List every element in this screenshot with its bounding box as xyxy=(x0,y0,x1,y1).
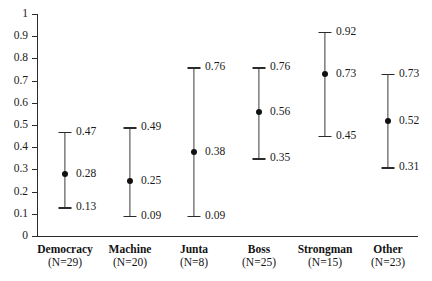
upper-value-label: 0.76 xyxy=(205,61,225,73)
chart-container: 10.90.80.70.60.50.40.30.20.10 0.470.280.… xyxy=(0,0,432,281)
estimate-value-label: 0.52 xyxy=(399,115,419,127)
category-label-democracy: Democracy(N=29) xyxy=(37,243,93,269)
category-name: Strongman xyxy=(298,243,353,256)
error-bar-cap-upper xyxy=(382,74,395,75)
error-bar-line xyxy=(193,67,194,216)
error-bar-cap-upper xyxy=(253,67,266,68)
category-sample-size: (N=23) xyxy=(371,256,405,269)
category-label-boss: Boss(N=25) xyxy=(242,243,276,269)
lower-value-label: 0.35 xyxy=(270,152,290,164)
error-bar-cap-upper xyxy=(124,127,137,128)
data-point-marker xyxy=(191,149,197,155)
y-axis-tick xyxy=(32,192,37,193)
y-axis-tick-label: 0.5 xyxy=(0,119,28,131)
y-axis-tick-label: 0.6 xyxy=(0,97,28,109)
y-axis-tick-label: 0.9 xyxy=(0,30,28,42)
error-bar-cap-lower xyxy=(253,158,266,159)
category-sample-size: (N=29) xyxy=(37,256,93,269)
y-axis-tick-label: 0.1 xyxy=(0,208,28,220)
y-axis-tick-label: 1 xyxy=(0,8,28,20)
category-name: Democracy xyxy=(37,243,93,256)
data-point-marker xyxy=(322,71,328,77)
category-name: Other xyxy=(371,243,405,256)
category-name: Machine xyxy=(109,243,152,256)
data-point-marker xyxy=(385,118,391,124)
category-name: Boss xyxy=(242,243,276,256)
data-point-marker xyxy=(256,109,262,115)
error-bar-cap-lower xyxy=(124,216,137,217)
estimate-value-label: 0.73 xyxy=(336,68,356,80)
error-bar-cap-lower xyxy=(59,207,72,208)
y-axis-tick xyxy=(32,169,37,170)
y-axis-line xyxy=(37,14,38,236)
upper-value-label: 0.47 xyxy=(76,126,96,138)
error-bar-line xyxy=(64,132,65,207)
category-sample-size: (N=20) xyxy=(109,256,152,269)
x-axis-line xyxy=(37,236,418,237)
error-bar-line xyxy=(324,32,325,136)
upper-value-label: 0.73 xyxy=(399,68,419,80)
error-bar-cap-lower xyxy=(319,136,332,137)
upper-value-label: 0.49 xyxy=(141,121,161,133)
lower-value-label: 0.13 xyxy=(76,201,96,213)
category-label-other: Other(N=23) xyxy=(371,243,405,269)
y-axis-tick-label: 0.2 xyxy=(0,186,28,198)
category-label-machine: Machine(N=20) xyxy=(109,243,152,269)
error-bar-cap-lower xyxy=(382,167,395,168)
y-axis-tick xyxy=(32,147,37,148)
y-axis-tick xyxy=(32,58,37,59)
y-axis-tick xyxy=(32,14,37,15)
estimate-value-label: 0.38 xyxy=(205,146,225,158)
category-label-strongman: Strongman(N=15) xyxy=(298,243,353,269)
lower-value-label: 0.09 xyxy=(205,210,225,222)
error-bar-cap-upper xyxy=(319,32,332,33)
error-bar-line xyxy=(129,127,130,216)
y-axis-tick-label: 0.7 xyxy=(0,75,28,87)
estimate-value-label: 0.25 xyxy=(141,175,161,187)
upper-value-label: 0.92 xyxy=(336,26,356,38)
y-axis-tick-label: 0.4 xyxy=(0,141,28,153)
category-sample-size: (N=25) xyxy=(242,256,276,269)
lower-value-label: 0.31 xyxy=(399,161,419,173)
category-sample-size: (N=15) xyxy=(298,256,353,269)
estimate-value-label: 0.56 xyxy=(270,106,290,118)
y-axis-tick-label: 0.8 xyxy=(0,52,28,64)
error-bar-cap-lower xyxy=(188,216,201,217)
lower-value-label: 0.09 xyxy=(141,210,161,222)
estimate-value-label: 0.28 xyxy=(76,168,96,180)
upper-value-label: 0.76 xyxy=(270,61,290,73)
error-bar-cap-upper xyxy=(188,67,201,68)
y-axis-tick xyxy=(32,236,37,237)
data-point-marker xyxy=(127,178,133,184)
category-name: Junta xyxy=(180,243,208,256)
category-sample-size: (N=8) xyxy=(180,256,208,269)
data-point-marker xyxy=(62,171,68,177)
y-axis-tick xyxy=(32,81,37,82)
category-label-junta: Junta(N=8) xyxy=(180,243,208,269)
lower-value-label: 0.45 xyxy=(336,130,356,142)
y-axis-tick xyxy=(32,125,37,126)
error-bar-cap-upper xyxy=(59,132,72,133)
y-axis-tick xyxy=(32,103,37,104)
y-axis-tick xyxy=(32,36,37,37)
y-axis-tick xyxy=(32,214,37,215)
y-axis-tick-label: 0 xyxy=(0,230,28,242)
y-axis-tick-label: 0.3 xyxy=(0,163,28,175)
